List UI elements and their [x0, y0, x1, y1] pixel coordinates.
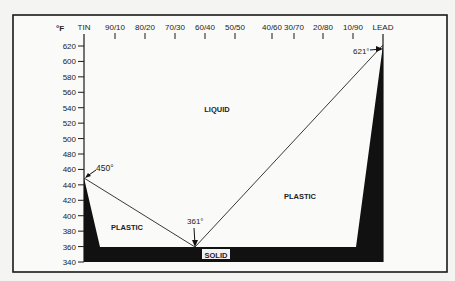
annotation-361: 361° [187, 217, 204, 226]
y-tick-label: 520 [63, 119, 77, 128]
y-tick-label: 440 [63, 181, 77, 190]
y-tick-label: 580 [63, 73, 77, 82]
x-tick-label: 40/60 [262, 23, 283, 32]
x-tick-label: 20/80 [313, 23, 334, 32]
x-tick-label: 60/40 [195, 23, 216, 32]
x-tick-label: 80/20 [135, 23, 156, 32]
y-tick-label: 600 [63, 57, 77, 66]
y-tick-label: 560 [63, 88, 77, 97]
x-tick-label: LEAD [373, 23, 394, 32]
y-tick-label: 340 [63, 258, 77, 267]
y-tick-label: 620 [63, 42, 77, 51]
y-tick-label: 500 [63, 135, 77, 144]
y-axis-unit: °F [56, 24, 64, 33]
liquid-label: LIQUID [204, 105, 230, 114]
x-tick-label: 10/90 [343, 23, 364, 32]
annotation-450: 450° [96, 163, 114, 173]
plastic-right-label: PLASTIC [284, 192, 317, 201]
y-tick-label: 540 [63, 104, 77, 113]
y-tick-label: 380 [63, 227, 77, 236]
x-tick-label: 30/70 [284, 23, 305, 32]
x-tick-label: TIN [78, 23, 91, 32]
y-tick-label: 420 [63, 196, 77, 205]
phase-diagram: 3403603804004204404604805005205405605806… [0, 0, 455, 281]
y-tick-label: 480 [63, 150, 77, 159]
y-tick-label: 460 [63, 165, 77, 174]
x-tick-label: 50/50 [225, 23, 246, 32]
x-tick-label: 90/10 [105, 23, 126, 32]
x-tick-label: 70/30 [165, 23, 186, 32]
y-tick-label: 400 [63, 212, 77, 221]
plastic-left-label: PLASTIC [111, 223, 144, 232]
y-tick-label: 360 [63, 243, 77, 252]
solid-label: SOLID [205, 251, 229, 260]
annotation-621: 621° [353, 47, 370, 56]
